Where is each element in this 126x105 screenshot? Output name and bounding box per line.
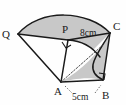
label-b: B xyxy=(102,89,109,101)
geometry-figure: Q P C A B 8cm 5cm xyxy=(0,0,126,105)
geometry-canvas: Q P C A B 8cm 5cm xyxy=(0,0,126,105)
label-q: Q xyxy=(2,28,10,40)
leader-line-ab-right xyxy=(95,85,101,93)
label-a: A xyxy=(54,85,62,97)
unshaded-triangle-qap xyxy=(18,34,68,82)
label-measure-pc: 8cm xyxy=(80,28,97,38)
leader-line-ab-left xyxy=(65,86,72,93)
label-p: P xyxy=(62,23,68,35)
label-c: C xyxy=(113,20,120,32)
label-measure-ab: 5cm xyxy=(72,92,89,102)
